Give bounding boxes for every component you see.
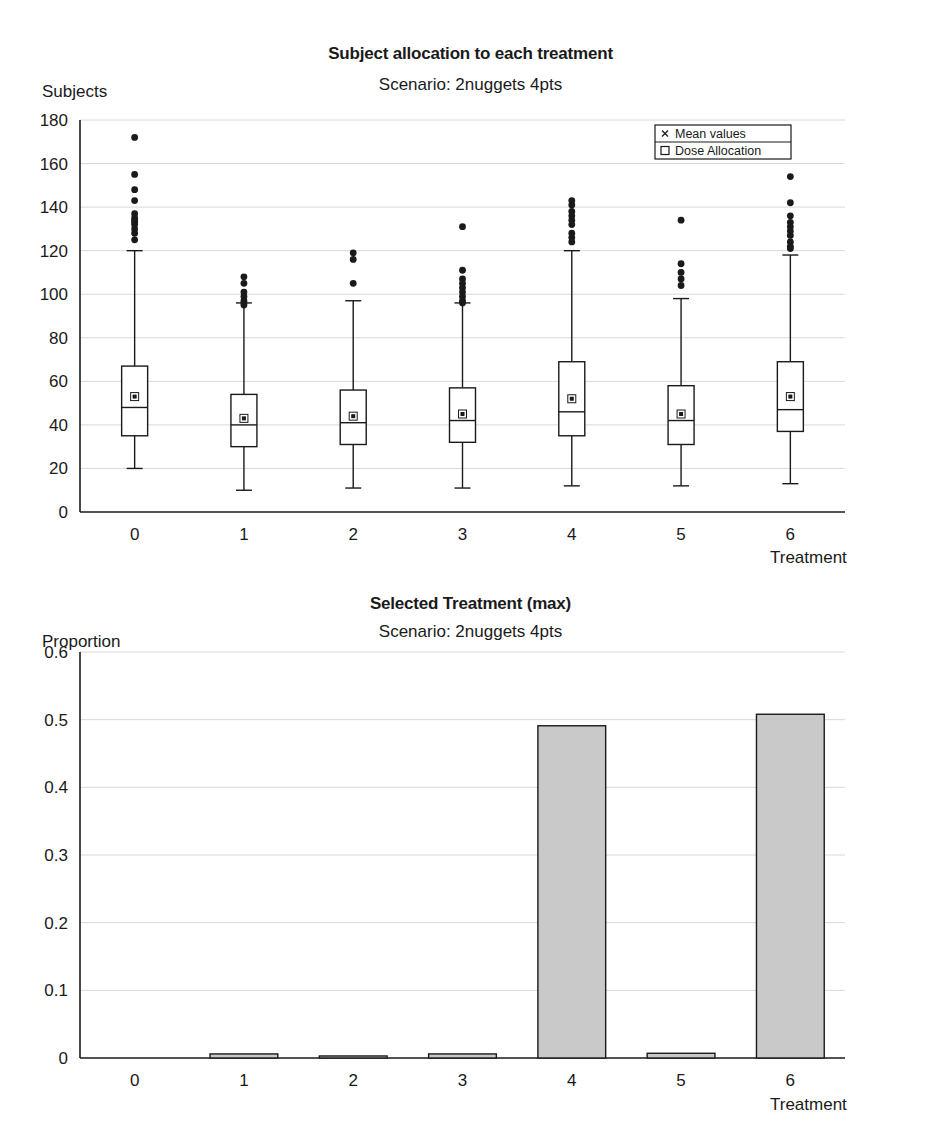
legend-label-mean-values: Mean values [675, 127, 746, 141]
boxplot-group [668, 217, 694, 486]
x-tick-label: 6 [786, 1071, 795, 1090]
outlier-point [787, 232, 794, 239]
outlier-point [241, 273, 248, 280]
outlier-point [131, 197, 138, 204]
boxplot-group [122, 134, 148, 468]
y-tick-label: 0.4 [44, 778, 68, 797]
outlier-point [131, 236, 138, 243]
outlier-point [787, 245, 794, 252]
outlier-point [131, 134, 138, 141]
bar [429, 1054, 497, 1058]
bar [319, 1056, 387, 1058]
y-tick-label: 0.2 [44, 914, 68, 933]
boxplot-group [340, 249, 366, 488]
x-tick-label: 0 [130, 525, 139, 544]
outlier-point [350, 256, 357, 263]
bottom-chart-title: Selected Treatment (max) [0, 594, 941, 614]
outlier-point [568, 221, 575, 228]
top-plot-group: 0204060801001201401601800123456Mean valu… [40, 111, 845, 544]
outlier-point [568, 239, 575, 246]
y-tick-label: 0.3 [44, 846, 68, 865]
bottom-chart-y-axis-label: Proportion [42, 632, 120, 652]
y-tick-label: 60 [49, 372, 68, 391]
outlier-point [350, 280, 357, 287]
outlier-point [131, 230, 138, 237]
mean-marker [133, 395, 137, 399]
outlier-point [241, 302, 248, 309]
x-tick-label: 1 [239, 1071, 248, 1090]
x-tick-label: 5 [676, 525, 685, 544]
outlier-point [568, 202, 575, 209]
x-tick-label: 2 [348, 525, 357, 544]
x-tick-label: 6 [786, 525, 795, 544]
outlier-point [459, 223, 466, 230]
y-tick-label: 40 [49, 416, 68, 435]
bottom-chart-x-axis-label: Treatment [770, 1095, 847, 1115]
top-chart-y-axis-label: Subjects [42, 82, 107, 102]
y-tick-label: 20 [49, 459, 68, 478]
y-tick-label: 140 [40, 198, 68, 217]
mean-marker [788, 395, 792, 399]
legend-label-dose-allocation: Dose Allocation [675, 144, 761, 158]
bottom-plot-group: 00.10.20.30.40.50.60123456 [44, 643, 845, 1090]
top-chart-title: Subject allocation to each treatment [0, 44, 941, 64]
bottom-chart-subtitle: Scenario: 2nuggets 4pts [0, 622, 941, 642]
outlier-point [131, 171, 138, 178]
bar [538, 726, 606, 1058]
y-tick-label: 160 [40, 155, 68, 174]
x-tick-label: 3 [458, 525, 467, 544]
outlier-point [241, 280, 248, 287]
mean-marker [461, 412, 465, 416]
x-tick-label: 3 [458, 1071, 467, 1090]
top-chart-x-axis-label: Treatment [770, 548, 847, 568]
outlier-point [678, 276, 685, 283]
boxplot-group [559, 197, 585, 486]
mean-marker [351, 414, 355, 418]
top-chart-subtitle: Scenario: 2nuggets 4pts [0, 75, 941, 95]
outlier-point [787, 173, 794, 180]
subject-allocation-chart: Subject allocation to each treatment Sce… [0, 0, 941, 580]
y-tick-label: 0.1 [44, 981, 68, 1000]
y-tick-label: 0 [59, 1049, 68, 1068]
x-tick-label: 2 [348, 1071, 357, 1090]
y-tick-label: 180 [40, 111, 68, 130]
boxplot-group [777, 173, 803, 483]
x-tick-label: 5 [676, 1071, 685, 1090]
outlier-point [131, 186, 138, 193]
x-tick-label: 4 [567, 1071, 576, 1090]
x-tick-label: 1 [239, 525, 248, 544]
mean-marker [679, 412, 683, 416]
outlier-point [459, 300, 466, 307]
bar [210, 1054, 278, 1058]
figure-page: Subject allocation to each treatment Sce… [0, 0, 941, 1146]
outlier-point [459, 267, 466, 274]
y-tick-label: 120 [40, 242, 68, 261]
square-marker-icon [661, 147, 669, 155]
y-tick-label: 0 [59, 503, 68, 522]
x-tick-label: 0 [130, 1071, 139, 1090]
bar [647, 1053, 715, 1058]
outlier-point [678, 260, 685, 267]
outlier-point [678, 282, 685, 289]
selected-treatment-chart: Selected Treatment (max) Scenario: 2nugg… [0, 580, 941, 1146]
mean-marker [242, 416, 246, 420]
x-tick-label: 4 [567, 525, 576, 544]
bottom-chart-plot: 00.10.20.30.40.50.60123456 [0, 580, 941, 1146]
outlier-point [678, 269, 685, 276]
boxplot-group [450, 223, 476, 488]
y-tick-label: 0.5 [44, 711, 68, 730]
bar [756, 714, 824, 1058]
outlier-point [787, 199, 794, 206]
outlier-point [678, 217, 685, 224]
y-tick-label: 80 [49, 329, 68, 348]
outlier-point [350, 249, 357, 256]
y-tick-label: 100 [40, 285, 68, 304]
outlier-point [787, 212, 794, 219]
legend: Mean valuesDose Allocation [655, 125, 791, 159]
mean-marker [570, 397, 574, 401]
